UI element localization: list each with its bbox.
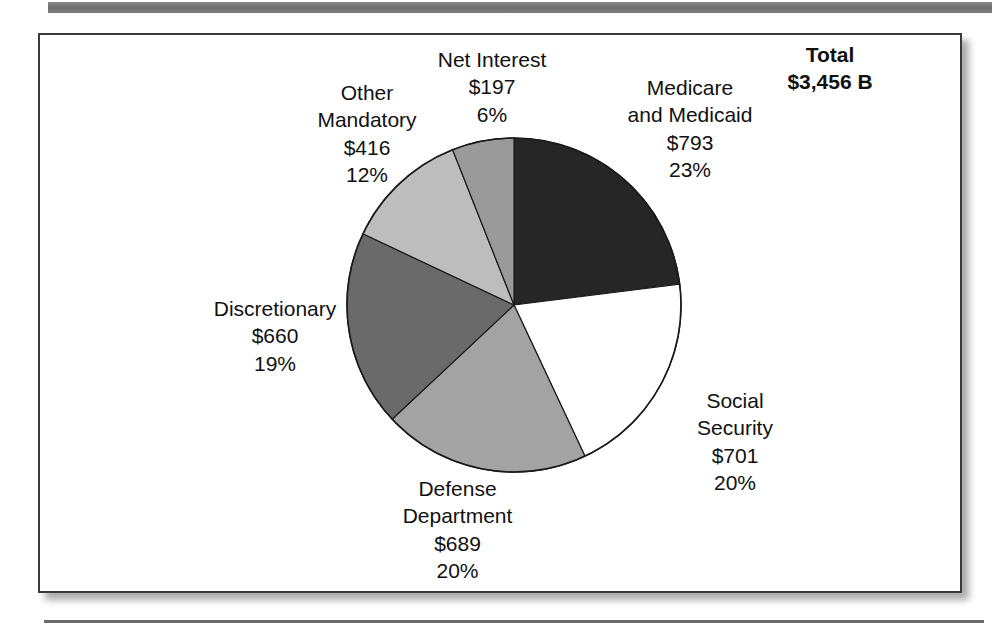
pie-chart-area: Net Interest $197 6% Medicare and Medica… — [40, 35, 964, 591]
pie-label-social-security-percent: 20% — [640, 469, 830, 496]
pie-label-discretionary-percent: 19% — [170, 350, 380, 377]
pie-label-defense-department: Defense Department $689 20% — [350, 475, 565, 584]
pie-label-medicare-percent: 23% — [585, 156, 795, 183]
pie-label-other-mandatory: Other Mandatory $416 12% — [272, 79, 462, 188]
pie-label-other-mandatory-percent: 12% — [272, 161, 462, 188]
pie-label-other-mandatory-value: $416 — [272, 134, 462, 161]
pie-label-defense-name-1: Defense — [350, 475, 565, 502]
pie-label-defense-value: $689 — [350, 530, 565, 557]
pie-label-medicare-name-2: and Medicaid — [585, 101, 795, 128]
pie-label-defense-percent: 20% — [350, 557, 565, 584]
pie-label-social-security-name-1: Social — [640, 387, 830, 414]
chart-frame: Net Interest $197 6% Medicare and Medica… — [38, 33, 962, 593]
pie-label-social-security-value: $701 — [640, 442, 830, 469]
pie-label-other-mandatory-name-2: Mandatory — [272, 106, 462, 133]
top-page-rule — [48, 2, 992, 13]
pie-label-defense-name-2: Department — [350, 502, 565, 529]
bottom-page-rule — [44, 620, 984, 623]
pie-label-social-security-name-2: Security — [640, 414, 830, 441]
pie-label-other-mandatory-name-1: Other — [272, 79, 462, 106]
total-callout: Total $3,456 B — [740, 41, 920, 96]
pie-label-social-security: Social Security $701 20% — [640, 387, 830, 496]
pie-label-medicare-value: $793 — [585, 129, 795, 156]
pie-label-discretionary-value: $660 — [170, 322, 380, 349]
total-value: $3,456 B — [740, 68, 920, 95]
pie-label-net-interest-name: Net Interest — [397, 46, 587, 73]
total-label: Total — [740, 41, 920, 68]
pie-label-discretionary: Discretionary $660 19% — [170, 295, 380, 377]
pie-label-discretionary-name: Discretionary — [170, 295, 380, 322]
